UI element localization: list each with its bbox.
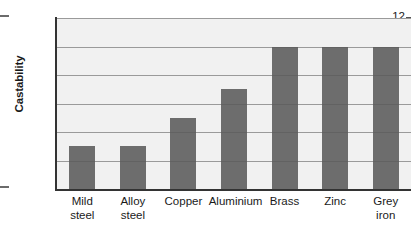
bar — [322, 47, 348, 190]
x-axis-label: Alloy steel — [108, 194, 159, 222]
gridline — [57, 75, 411, 76]
x-axis-label: Copper — [158, 194, 209, 208]
bar — [373, 47, 399, 190]
plot-area — [57, 18, 411, 189]
x-axis-label: Zinc — [310, 194, 361, 208]
x-axis-label: Aluminium — [209, 194, 260, 208]
chart-page: Castability 024681012 Mild steelAlloy st… — [0, 0, 411, 236]
x-axis-label: Grey iron — [360, 194, 411, 222]
bar — [272, 47, 298, 190]
bar — [69, 146, 95, 189]
x-axis-label: Mild steel — [57, 194, 108, 222]
gridline — [57, 47, 411, 48]
bar — [170, 118, 196, 189]
bar — [120, 146, 146, 189]
bar — [221, 89, 247, 189]
x-axis-label: Brass — [259, 194, 310, 208]
x-axis-line — [55, 189, 411, 191]
gridline — [57, 18, 411, 19]
